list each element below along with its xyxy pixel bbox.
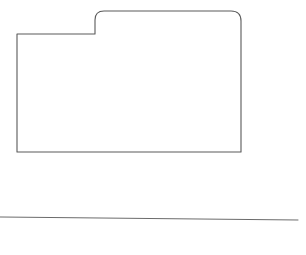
line-drawing-svg <box>0 0 306 255</box>
canvas-background <box>0 0 306 255</box>
drawing-canvas <box>0 0 306 255</box>
